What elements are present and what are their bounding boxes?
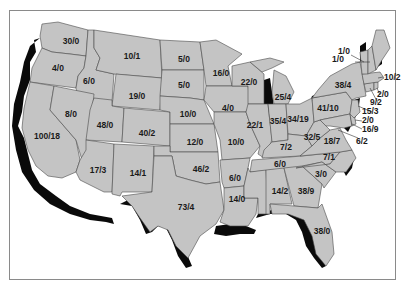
label-wa: 30/0 [63,36,80,46]
label-nv: 8/0 [65,109,77,119]
state-nj[interactable] [350,100,360,118]
label-wv: 32/5 [304,132,321,142]
label-ky: 7/2 [280,142,292,152]
label-id: 6/0 [83,76,95,86]
label-nd: 5/0 [178,54,190,64]
label-mn: 16/0 [213,68,230,78]
state-co[interactable] [122,108,170,146]
label-ia: 4/0 [222,103,234,113]
label-sd: 5/0 [178,80,190,90]
label-tx: 73/4 [178,202,195,212]
label-tn: 6/0 [274,159,286,169]
label-wi: 22/0 [241,77,258,87]
label-co: 40/2 [139,128,156,138]
label-ks: 12/0 [187,137,204,147]
label-ms: 14/2 [272,186,289,196]
label-mo: 10/0 [228,137,245,147]
label-ar: 6/0 [229,173,241,183]
label-la: 14/0 [229,194,246,204]
label-in: 35/4 [270,116,287,126]
label-il: 22/1 [247,120,264,130]
label-fl: 38/0 [314,226,331,236]
label-md: 16/9 [362,124,379,134]
label-az: 17/3 [90,165,107,175]
label-ny: 38/4 [335,80,352,90]
label-va: 18/7 [324,136,341,146]
label-ok: 46/2 [193,164,210,174]
label-ca: 100/18 [34,131,60,141]
label-oh: 34/19 [287,114,309,124]
label-wy: 19/0 [129,91,146,101]
label-nh: 1/0 [332,54,344,64]
label-sc: 3/0 [315,169,327,179]
label-pa: 41/10 [317,103,339,113]
label-mi: 25/4 [275,92,292,102]
label-mt: 10/1 [124,51,141,61]
label-nm: 14/1 [130,168,147,178]
label-or: 4/0 [52,63,64,73]
label-nc: 7/1 [323,152,335,162]
label-ma: 10/2 [384,72,401,82]
label-al: 38/9 [298,186,315,196]
label-dc: 6/2 [356,136,368,146]
label-ut: 48/0 [97,120,114,130]
us-map: 30/0 4/0 6/0 10/1 5/0 5/0 19/0 8/0 100/1… [0,0,404,290]
label-ne: 10/0 [180,109,197,119]
